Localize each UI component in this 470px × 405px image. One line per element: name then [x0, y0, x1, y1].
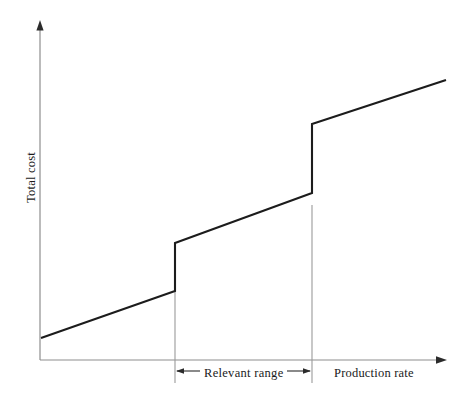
relevant-range-right-arrowhead-icon: [303, 368, 311, 374]
y-axis-arrowhead-icon: [36, 20, 43, 31]
y-axis-label: Total cost: [24, 123, 39, 233]
figure-container: Total cost Relevant range Production rat…: [0, 0, 470, 405]
x-axis-arrowhead-icon: [436, 356, 447, 363]
relevant-range-left-arrowhead-icon: [176, 368, 184, 374]
relevant-range-label: Relevant range: [204, 366, 284, 381]
total-cost-step-curve: [41, 80, 446, 338]
step-cost-chart: [0, 0, 470, 405]
x-axis-label: Production rate: [334, 366, 414, 381]
